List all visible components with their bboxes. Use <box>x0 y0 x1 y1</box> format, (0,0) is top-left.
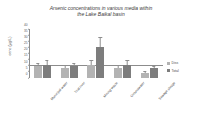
bar-wrapper <box>43 29 51 78</box>
chart-title-line2: the Lake Baikal basin <box>77 11 125 17</box>
legend-swatch <box>167 69 170 72</box>
bar-wrapper <box>34 29 42 78</box>
bar-group <box>84 29 108 78</box>
chart-figure: Arsenic concentrations in various media … <box>0 0 202 120</box>
bar-total[interactable] <box>150 68 158 78</box>
legend-item[interactable]: Diss <box>167 61 179 65</box>
bar-wrapper <box>87 29 95 78</box>
x-tick-label: Municipal water <box>50 81 69 101</box>
legend-item[interactable]: Total <box>167 69 179 73</box>
legend-swatch <box>167 62 170 65</box>
error-bar <box>118 65 119 67</box>
bar-diss[interactable] <box>87 65 95 78</box>
error-bar <box>47 61 48 65</box>
chart-legend: DissTotal <box>167 61 179 76</box>
error-bar <box>145 71 146 73</box>
x-tick-label: Groundwater <box>129 81 145 98</box>
error-bar-cap <box>126 60 129 61</box>
x-tick-label: Trial river <box>74 81 86 94</box>
bar-group <box>30 29 54 78</box>
bar-group <box>57 29 81 78</box>
y-axis-label: conc (µg/L) <box>8 28 12 64</box>
x-tick-label: Sewage sludge <box>157 81 175 101</box>
y-tick-label: 40 <box>16 24 28 27</box>
error-bar-cap <box>152 66 155 67</box>
y-tick-label: 35 <box>16 30 28 33</box>
bar-wrapper <box>114 29 122 78</box>
legend-label: Diss <box>172 61 179 65</box>
legend-label: Total <box>172 69 179 73</box>
error-bar-cap <box>99 37 102 38</box>
bar-diss[interactable] <box>141 73 149 78</box>
x-tick-label: Mining waste <box>103 81 119 98</box>
x-axis-labels: Municipal waterTrial riverMining wasteGr… <box>29 79 163 119</box>
y-tick-label: 5 <box>16 67 28 70</box>
bar-wrapper <box>150 29 158 78</box>
error-bar <box>127 61 128 65</box>
bar-group <box>111 29 135 78</box>
bar-total[interactable] <box>43 65 51 78</box>
bar-total[interactable] <box>96 47 104 78</box>
bar-wrapper <box>61 29 69 78</box>
error-bar <box>38 63 39 66</box>
bar-diss[interactable] <box>61 68 69 78</box>
bar-diss[interactable] <box>34 66 42 78</box>
bar-diss[interactable] <box>114 68 122 78</box>
bar-wrapper <box>96 29 104 78</box>
bar-total[interactable] <box>123 65 131 78</box>
error-bar-cap <box>72 63 75 64</box>
y-tick-label: 0 <box>16 73 28 76</box>
chart-title-line1: Arsenic concentrations in various media … <box>50 5 153 11</box>
bar-wrapper <box>70 29 78 78</box>
error-bar <box>154 66 155 67</box>
bar-groups <box>29 29 163 78</box>
error-bar-cap <box>143 71 146 72</box>
error-bar-cap <box>117 65 120 66</box>
y-tick-label: 30 <box>16 36 28 39</box>
chart-title: Arsenic concentrations in various media … <box>26 5 176 17</box>
error-bar-cap <box>36 63 39 64</box>
bar-wrapper <box>141 29 149 78</box>
error-bar-cap <box>90 60 93 61</box>
error-bar <box>73 64 74 66</box>
plot-area: 0510152025303540 <box>29 29 163 78</box>
error-bar <box>100 38 101 48</box>
error-bar-cap <box>63 65 66 66</box>
y-tick-label: 10 <box>16 61 28 64</box>
bar-group <box>138 29 162 78</box>
y-tick-label: 15 <box>16 55 28 58</box>
bar-wrapper <box>123 29 131 78</box>
bar-total[interactable] <box>70 66 78 78</box>
y-tick-label: 25 <box>16 43 28 46</box>
error-bar <box>91 61 92 65</box>
y-tick-label: 20 <box>16 49 28 52</box>
error-bar <box>64 66 65 68</box>
error-bar-cap <box>45 60 48 61</box>
